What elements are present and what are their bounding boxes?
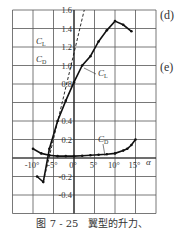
- svg-text:5°: 5°: [90, 160, 98, 170]
- svg-text:-5°: -5°: [47, 160, 57, 170]
- legend-cl: CL: [36, 36, 46, 47]
- side-label-d: (d): [160, 8, 174, 23]
- svg-text:0°: 0°: [69, 160, 77, 170]
- series: [32, 10, 137, 183]
- legend-cd: CD: [36, 54, 47, 65]
- svg-text:1.6: 1.6: [61, 5, 72, 15]
- cd-annotation: CD: [98, 134, 109, 145]
- svg-text:-10°: -10°: [25, 160, 40, 170]
- svg-text:-0.4: -0.4: [59, 190, 73, 200]
- grid: [13, 10, 157, 214]
- svg-text:1.2: 1.2: [61, 42, 72, 52]
- svg-text:1.4: 1.4: [61, 24, 72, 34]
- svg-text:0.2: 0.2: [61, 135, 72, 145]
- svg-text:-0.2: -0.2: [59, 172, 72, 182]
- axes: [13, 10, 157, 214]
- side-label-e: (e): [160, 60, 173, 75]
- cl-annotation: CL: [98, 68, 108, 79]
- svg-text:0.4: 0.4: [61, 116, 72, 126]
- figure-caption: 图 7 - 25 翼型的升力、: [0, 215, 185, 230]
- alpha-axis-label: α: [146, 157, 151, 167]
- svg-text:10°: 10°: [108, 160, 120, 170]
- svg-text:15°: 15°: [129, 160, 141, 170]
- lift-drag-chart: 1.61.41.21.00.80.40.2-0.2-0.4-10°-5°0°5°…: [0, 0, 185, 215]
